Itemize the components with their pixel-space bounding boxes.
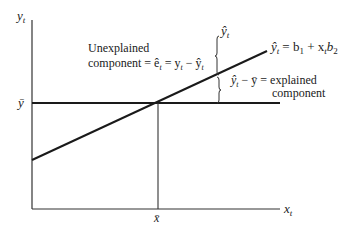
unexplained-brace [215,36,219,75]
explained-brace [217,77,221,103]
regression-equation: ŷt= b1 + xtb2 [269,39,338,56]
brace-top-label: ŷt [219,23,230,40]
x-axis-label: xt [283,201,293,218]
ybar-label: ȳ [16,95,24,110]
explained-label-line2: component [272,86,326,100]
unexplained-label-line1: Unexplained [88,41,149,55]
unexplained-label-line2: component = êt = yt − ŷt [88,56,204,72]
xbar-label: x̄ [153,211,160,225]
y-axis-label: yt [15,8,26,25]
regression-decomposition-diagram: yt xt ȳ x̄ ŷt ŷt= b1 + xtb2 Unexplained … [0,0,353,231]
